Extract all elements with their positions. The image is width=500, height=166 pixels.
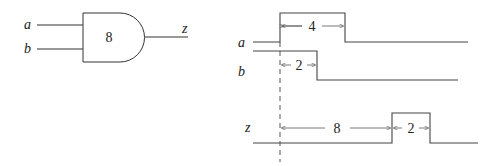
b-high-duration: 2 — [296, 58, 303, 73]
z-delay: 8 — [334, 121, 341, 136]
timing-a-label: a — [238, 35, 245, 50]
output-z-label: z — [181, 21, 188, 36]
timing-z-label: z — [244, 120, 251, 135]
timing-b-label: b — [238, 64, 245, 79]
and-gate: 8 — [83, 13, 145, 62]
and-gate-body — [83, 13, 145, 62]
waveform-b — [253, 51, 458, 80]
z-pulse-width: 2 — [408, 121, 415, 136]
a-pulse-width: 4 — [309, 19, 316, 34]
waveform-a — [253, 13, 468, 42]
diagram-canvas: 8 a b z a 4 b 2 z 8 2 — [0, 0, 500, 166]
gate-delay-label: 8 — [106, 30, 113, 45]
input-b-label: b — [24, 41, 31, 56]
input-a-label: a — [24, 17, 31, 32]
